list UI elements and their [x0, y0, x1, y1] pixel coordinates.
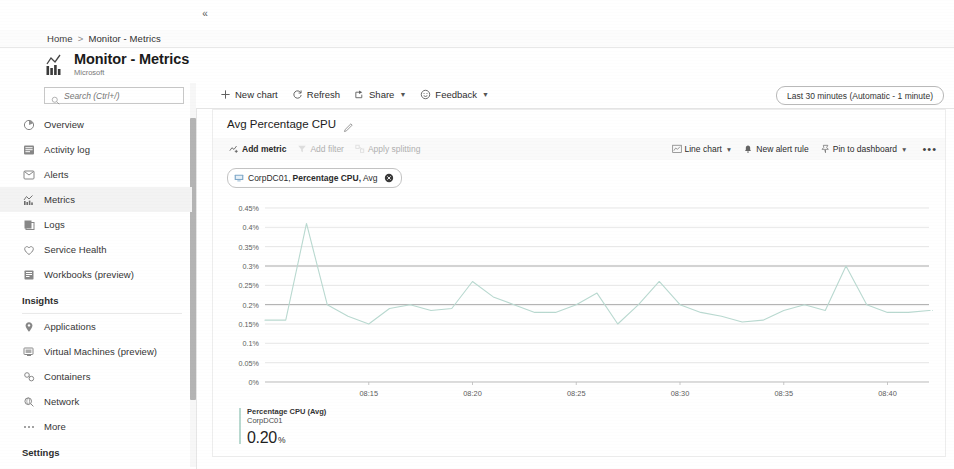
sidebar-item-service-health[interactable]: Service Health — [0, 237, 192, 262]
splitting-icon — [355, 144, 365, 154]
more-icon — [22, 420, 35, 433]
x-axis-tick-label: 08:20 — [463, 389, 482, 398]
add-metric-label: Add metric — [242, 144, 286, 154]
metric-chip[interactable]: CorpDC01, Percentage CPU, Avg — [227, 168, 402, 188]
breadcrumb: Home > Monitor - Metrics — [0, 30, 954, 48]
sidebar-section-settings: Settings — [0, 439, 192, 465]
sidebar-item-overview[interactable]: Overview — [0, 112, 192, 137]
azure-monitor-metrics-page: Home > Monitor - Metrics Monitor - Metri… — [0, 0, 954, 469]
overview-icon — [22, 118, 35, 131]
sidebar-item-virtual-machines[interactable]: Virtual Machines (preview) — [0, 339, 192, 364]
sidebar-nav-list: Overview Activity log — [0, 112, 192, 465]
line-chart-svg[interactable]: 0.45%0.4%0.35%0.3%0.25%0.2%0.15%0.1%0.05… — [227, 200, 933, 408]
sidebar-item-alerts[interactable]: Alerts — [0, 162, 192, 187]
y-axis-tick-label: 0.15% — [239, 320, 260, 329]
share-icon — [354, 89, 365, 100]
y-axis-tick-label: 0.3% — [243, 262, 260, 271]
add-metric-button[interactable]: Add metric — [229, 144, 286, 154]
apply-splitting-button[interactable]: Apply splitting — [355, 144, 420, 154]
metrics-icon — [22, 193, 35, 206]
sidebar-item-workbooks[interactable]: Workbooks (preview) — [0, 262, 192, 287]
sidebar-item-label: Metrics — [44, 194, 75, 205]
sidebar-item-label: Network — [44, 396, 79, 407]
new-chart-button[interactable]: New chart — [220, 89, 278, 100]
y-axis-tick-label: 0.4% — [243, 223, 260, 232]
apply-splitting-label: Apply splitting — [368, 144, 420, 154]
containers-icon — [22, 370, 35, 383]
refresh-button[interactable]: Refresh — [292, 89, 340, 100]
page-title-block: Monitor - Metrics Microsoft — [0, 48, 954, 82]
y-axis-tick-label: 0.45% — [239, 204, 260, 213]
y-axis-tick-label: 0.35% — [239, 243, 260, 252]
chart-title: Avg Percentage CPU — [227, 118, 336, 130]
sidebar-item-activity-log[interactable]: Activity log — [0, 137, 192, 162]
chart-plot-area: 0.45%0.4%0.35%0.3%0.25%0.2%0.15%0.1%0.05… — [227, 200, 933, 408]
virtual-machines-icon — [22, 345, 35, 358]
y-axis-tick-label: 0.25% — [239, 281, 260, 290]
x-axis-tick-label: 08:30 — [671, 389, 690, 398]
chevron-down-icon: ▼ — [726, 146, 732, 153]
x-axis-tick-label: 08:35 — [775, 389, 794, 398]
search-input[interactable] — [64, 91, 174, 101]
chart-series-line[interactable] — [265, 223, 929, 324]
legend-color-swatch — [239, 408, 241, 444]
chart-toolbar: Add metric Add filter — [213, 138, 945, 160]
chart-title-row: Avg Percentage CPU — [227, 118, 354, 130]
sidebar-item-applications[interactable]: Applications — [0, 314, 192, 339]
close-icon[interactable] — [384, 173, 394, 183]
y-axis-tick-label: 0% — [249, 378, 260, 387]
sidebar-item-label: More — [44, 421, 66, 432]
legend-value-number: 0.20 — [247, 429, 277, 446]
chart-card: Avg Percentage CPU Add metric — [212, 109, 946, 457]
sidebar-item-network[interactable]: Network — [0, 389, 192, 414]
sidebar-item-label: Containers — [44, 371, 90, 382]
chart-toolbar-right: Line chart ▼ New alert rule — [672, 138, 938, 160]
chevron-down-icon: ▼ — [399, 91, 406, 98]
share-label: Share — [369, 89, 394, 100]
sidebar-item-label: Overview — [44, 119, 84, 130]
sidebar-item-containers[interactable]: Containers — [0, 364, 192, 389]
network-icon — [22, 395, 35, 408]
sidebar: Overview Activity log — [0, 81, 197, 469]
share-button[interactable]: Share ▼ — [354, 89, 406, 100]
sidebar-item-metrics[interactable]: Metrics — [0, 187, 192, 212]
chart-type-label: Line chart — [685, 144, 722, 154]
feedback-smiley-icon — [420, 89, 431, 100]
sidebar-item-label: Virtual Machines (preview) — [44, 346, 157, 357]
sidebar-section-insights: Insights — [0, 287, 192, 313]
legend-value-unit: % — [278, 435, 285, 445]
page-title-text: Monitor - Metrics Microsoft — [74, 51, 189, 78]
add-filter-button[interactable]: Add filter — [297, 144, 344, 154]
pencil-icon[interactable] — [343, 119, 354, 130]
feedback-label: Feedback — [435, 89, 477, 100]
chart-more-options-button[interactable]: ••• — [922, 145, 937, 153]
y-axis-tick-label: 0.2% — [243, 301, 260, 310]
time-range-picker[interactable]: Last 30 minutes (Automatic - 1 minute) — [776, 86, 944, 105]
sidebar-item-label: Alerts — [44, 169, 69, 180]
sidebar-item-more[interactable]: More — [0, 414, 192, 439]
line-chart-icon — [672, 144, 682, 154]
refresh-label: Refresh — [307, 89, 340, 100]
resource-icon — [234, 173, 244, 183]
filter-icon — [297, 144, 307, 154]
y-axis-tick-label: 0.05% — [239, 359, 260, 368]
chart-type-button[interactable]: Line chart ▼ — [672, 144, 733, 154]
page-title: Monitor - Metrics — [74, 51, 189, 68]
x-axis-tick-label: 08:25 — [567, 389, 586, 398]
feedback-button[interactable]: Feedback ▼ — [420, 89, 489, 100]
breadcrumb-home[interactable]: Home — [47, 33, 73, 44]
sidebar-item-logs[interactable]: Logs — [0, 212, 192, 237]
search-box[interactable] — [44, 87, 184, 104]
new-alert-rule-button[interactable]: New alert rule — [743, 144, 808, 154]
pin-to-dashboard-label: Pin to dashboard — [833, 144, 897, 154]
sidebar-item-label: Applications — [44, 321, 96, 332]
pin-to-dashboard-button[interactable]: Pin to dashboard ▼ — [820, 144, 908, 154]
search-icon — [51, 91, 60, 100]
chip-metric: Percentage CPU, — [293, 173, 362, 183]
new-alert-rule-label: New alert rule — [756, 144, 808, 154]
breadcrumb-separator-icon: > — [78, 33, 84, 44]
plus-icon — [220, 89, 231, 100]
chevron-down-icon: ▼ — [482, 91, 489, 98]
sidebar-item-label: Service Health — [44, 244, 106, 255]
collapse-sidebar-button[interactable]: « — [198, 7, 212, 21]
